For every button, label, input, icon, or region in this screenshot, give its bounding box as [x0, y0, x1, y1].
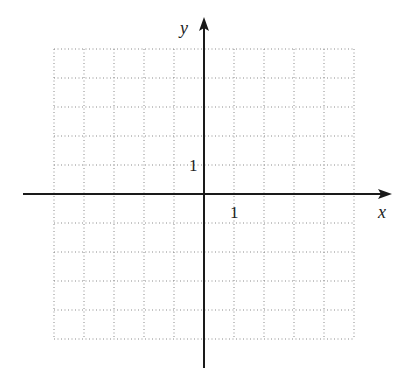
x-tick-label-1: 1 — [230, 203, 239, 222]
y-axis-label: y — [178, 18, 188, 38]
coordinate-plane: x y 1 1 — [0, 0, 405, 379]
x-axis-label: x — [377, 202, 386, 222]
y-tick-label-1: 1 — [189, 156, 198, 175]
